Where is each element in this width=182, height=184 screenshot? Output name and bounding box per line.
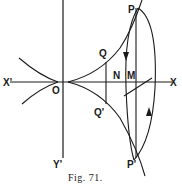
loop-right-path xyxy=(134,8,155,160)
label-X: X xyxy=(170,77,177,88)
label-M: M xyxy=(127,70,135,81)
figure-caption: Fig. 71. xyxy=(68,172,103,183)
label-Q-prime: Q' xyxy=(94,107,104,118)
left-upper-branch xyxy=(19,58,58,82)
label-Y-prime: Y' xyxy=(53,159,62,170)
arrow-up-icon xyxy=(146,107,152,116)
label-N: N xyxy=(113,70,120,81)
label-Q: Q xyxy=(99,48,107,59)
label-O: O xyxy=(52,85,60,96)
arrow-down-icon xyxy=(123,52,129,61)
diagram-canvas: P P' Q Q' N M X X' O Y' Fig. 71. xyxy=(0,0,182,184)
label-P: P xyxy=(128,4,135,15)
label-P-prime: P' xyxy=(127,159,136,170)
label-X-prime: X' xyxy=(3,77,12,88)
